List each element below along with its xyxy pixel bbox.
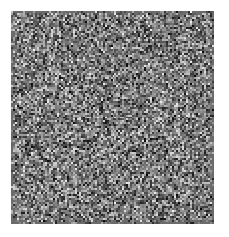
noise-canvas [11,11,214,224]
page-root [0,0,229,237]
noise-texture-block [11,11,214,224]
